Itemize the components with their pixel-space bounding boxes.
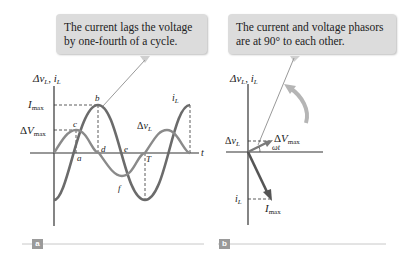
point-d: d [101, 144, 106, 154]
point-c: c [73, 119, 77, 129]
imax-label: Imax [27, 98, 44, 112]
voltage-proj-label: ΔvL [225, 135, 240, 148]
phasor-y-label: ΔvL, iL [229, 72, 258, 86]
angle-arc [259, 147, 260, 152]
current-phasor [248, 152, 268, 194]
rotation-arrow-icon [290, 88, 307, 123]
point-T: T [146, 154, 152, 164]
voltage-phasor [248, 142, 268, 152]
point-f: f [118, 183, 122, 193]
callout-lag-pointer [140, 56, 150, 63]
panel-b-tag: b [219, 239, 230, 249]
vmax-label: ΔVmax [20, 124, 46, 138]
panel-a-tag: a [32, 239, 43, 249]
point-a: a [77, 153, 82, 163]
current-phasor-label: Imax [264, 202, 281, 216]
callout-phasor-pointer [290, 56, 300, 62]
diagram-canvas: ΔvL, iL t Imax ΔVmax b c a d e f T iL Δv… [0, 0, 406, 261]
panel-b-phasor: ΔvL, iL ΔvL ΔVmax ωt iL Imax [218, 72, 386, 244]
y-axis-label: ΔvL, iL [32, 72, 61, 86]
angle-label: ωt [272, 143, 281, 152]
current-proj-label: iL [235, 193, 242, 206]
t-axis-label: t [201, 147, 204, 158]
callout-lag-leader [103, 60, 145, 106]
panel-a-graph: ΔvL, iL t Imax ΔVmax b c a d e f T iL Δv… [20, 72, 204, 244]
point-e: e [124, 144, 128, 154]
point-b: b [95, 93, 100, 103]
current-curve-label: iL [172, 92, 179, 105]
voltage-curve-label: ΔvL [137, 120, 152, 133]
